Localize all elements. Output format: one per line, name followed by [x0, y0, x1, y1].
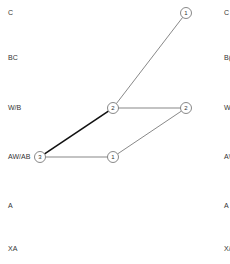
- graph-diagram: 12231: [0, 0, 230, 264]
- node-n-top: 1: [181, 8, 192, 19]
- edge-n-low-n-mid-right: [118, 111, 182, 154]
- node-n-low: 1: [108, 152, 119, 163]
- node-n-mid-left: 2: [108, 103, 119, 114]
- edge-n-start-n-mid-left: [45, 111, 109, 154]
- edge-n-mid-left-n-top: [116, 17, 182, 103]
- node-n-start: 3: [35, 152, 46, 163]
- node-n-mid-right: 2: [181, 103, 192, 114]
